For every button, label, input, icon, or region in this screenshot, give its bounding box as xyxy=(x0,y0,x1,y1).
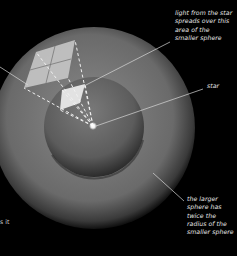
label-larger-sphere: the larger sphere has twice the radius o… xyxy=(187,195,237,236)
label-light-area: light from the star spreads over this ar… xyxy=(175,9,237,42)
label-partial-left: s it xyxy=(0,218,10,226)
label-star: star xyxy=(207,82,219,90)
star-icon xyxy=(89,122,97,130)
